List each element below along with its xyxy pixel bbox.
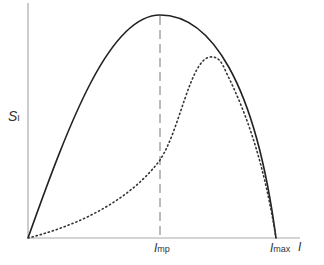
chart-canvas [0,0,324,265]
x-axis-label: I [298,240,301,254]
solid-curve [28,15,276,238]
dotted-curve [28,57,276,238]
x-tick-imp: Imp [154,241,170,255]
y-axis-label: SI [8,108,20,124]
x-tick-imax: Imax [270,241,290,255]
